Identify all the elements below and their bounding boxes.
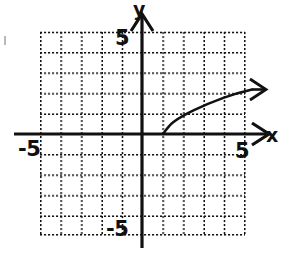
y-axis-tick-label-5: 5 <box>115 28 129 49</box>
x-axis-tick-label-negative-5: -5 <box>18 139 40 160</box>
scan-artifact-mark <box>4 36 6 45</box>
x-axis-label: x <box>266 126 278 145</box>
function-curve <box>163 79 266 134</box>
y-axis-tick-label-negative-5: -5 <box>106 219 128 240</box>
graph-screenshot: y x 5 -5 5 -5 <box>0 0 288 259</box>
coordinate-plane-graph <box>0 0 288 259</box>
y-axis-label: y <box>133 0 145 19</box>
axes <box>14 14 269 248</box>
y-axis <box>131 14 153 248</box>
sqrt-curve-path <box>163 90 252 135</box>
x-axis-tick-label-5: 5 <box>235 141 249 162</box>
